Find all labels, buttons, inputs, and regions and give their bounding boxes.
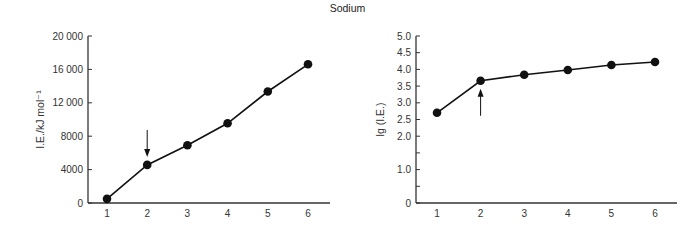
data-line (437, 62, 655, 113)
x-tick-label: 3 (185, 208, 191, 219)
data-line (107, 64, 308, 199)
chart-canvas: 04000800012 00016 00020 000I.E./kJ mol⁻¹… (0, 0, 695, 239)
y-tick-label: 0 (77, 198, 83, 209)
data-point-marker (143, 161, 152, 170)
x-tick-label: 6 (305, 208, 311, 219)
left-chart-ie-linear: 04000800012 00016 00020 000I.E./kJ mol⁻¹… (34, 31, 330, 220)
x-tick-label: 3 (521, 208, 527, 219)
data-point-marker (607, 61, 616, 70)
arrow-up-icon (478, 89, 484, 97)
x-tick-label: 1 (434, 208, 440, 219)
y-tick-label: 8000 (61, 131, 84, 142)
y-tick-label: 3.5 (397, 81, 411, 92)
data-point-marker (264, 87, 273, 96)
data-point-marker (183, 141, 192, 150)
y-tick-label: 5.0 (397, 31, 411, 42)
y-tick-label: 4000 (61, 164, 84, 175)
y-tick-label: 1.0 (397, 164, 411, 175)
data-point-marker (564, 66, 573, 75)
y-tick-label: 0 (405, 198, 411, 209)
data-point-marker (520, 70, 529, 79)
data-point-marker (223, 119, 232, 128)
y-tick-label: 12 000 (52, 97, 83, 108)
y-tick-label: 4.5 (397, 47, 411, 58)
data-point-marker (651, 58, 660, 67)
data-point-marker (304, 60, 313, 69)
y-tick-label: 2.0 (397, 131, 411, 142)
y-axis-title: I.E./kJ mol⁻¹ (34, 90, 46, 149)
x-tick-label: 6 (652, 208, 658, 219)
x-tick-label: 4 (565, 208, 571, 219)
y-tick-label: 2.5 (397, 114, 411, 125)
x-tick-label: 5 (609, 208, 615, 219)
y-tick-label: 20 000 (52, 31, 83, 42)
right-chart-lg-ie: 01.02.02.53.03.54.04.55.0lg (I.E.)123456 (374, 31, 677, 220)
y-axis-title: lg (I.E.) (374, 103, 386, 137)
x-tick-label: 5 (265, 208, 271, 219)
data-point-marker (476, 76, 485, 85)
data-point-marker (433, 109, 442, 118)
x-tick-label: 2 (478, 208, 484, 219)
y-tick-label: 3.0 (397, 97, 411, 108)
y-tick-label: 4.0 (397, 64, 411, 75)
x-tick-label: 4 (225, 208, 231, 219)
data-point-marker (103, 195, 112, 204)
x-tick-label: 1 (104, 208, 110, 219)
x-tick-label: 2 (144, 208, 150, 219)
y-tick-label: 16 000 (52, 64, 83, 75)
arrow-down-icon (144, 149, 150, 157)
